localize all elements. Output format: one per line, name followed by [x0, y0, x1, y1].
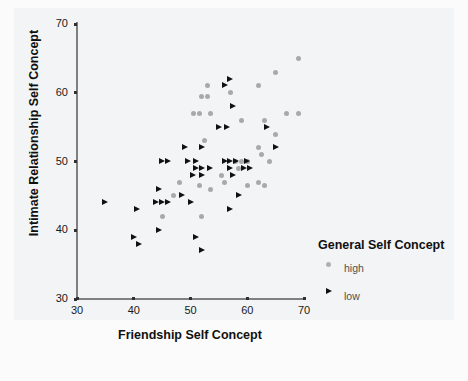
- data-point-high: [296, 56, 301, 61]
- data-point-low: [185, 158, 191, 164]
- data-point-low: [136, 241, 142, 247]
- data-point-low: [165, 158, 171, 164]
- data-point-high: [191, 111, 196, 116]
- y-tick-label: 60: [44, 86, 68, 98]
- data-point-low: [131, 234, 137, 240]
- data-point-high: [273, 70, 278, 75]
- y-tick-label: 50: [44, 155, 68, 167]
- x-tick-label: 60: [235, 304, 259, 316]
- data-point-high: [262, 118, 267, 123]
- data-point-high: [219, 173, 224, 178]
- data-point-low: [273, 144, 279, 150]
- data-point-low: [264, 124, 270, 130]
- triangle-marker-icon: [326, 288, 332, 294]
- data-point-high: [284, 111, 289, 116]
- data-point-low: [236, 192, 242, 198]
- circle-marker-icon: [326, 262, 331, 267]
- legend-label-high: high: [344, 262, 364, 274]
- scatter-plot-figure: 30405060703040506070 Intimate Relationsh…: [0, 0, 468, 381]
- data-point-low: [224, 124, 230, 130]
- data-point-low: [193, 234, 199, 240]
- data-point-low: [199, 247, 205, 253]
- legend-title: General Self Concept: [318, 238, 458, 252]
- data-point-low: [190, 172, 196, 178]
- x-tick-label: 50: [179, 304, 203, 316]
- data-point-high: [205, 83, 210, 88]
- y-tick-label: 30: [44, 292, 68, 304]
- x-tick-label: 30: [65, 304, 89, 316]
- x-axis-title: Friendship Self Concept: [60, 328, 320, 342]
- data-point-low: [222, 82, 228, 88]
- data-point-low: [199, 144, 205, 150]
- data-point-high: [256, 180, 261, 185]
- data-point-low: [179, 192, 185, 198]
- x-tick-label: 70: [292, 304, 316, 316]
- y-tick-label: 70: [44, 17, 68, 29]
- data-point-high: [202, 138, 207, 143]
- legend-item-high: high: [318, 258, 458, 280]
- data-point-low: [193, 158, 199, 164]
- data-point-low: [182, 144, 188, 150]
- data-point-high: [245, 183, 250, 188]
- data-point-low: [165, 199, 171, 205]
- data-point-high: [171, 193, 176, 198]
- data-point-low: [227, 165, 233, 171]
- plot-data-area: [77, 24, 304, 299]
- data-point-low: [188, 199, 194, 205]
- data-point-high: [256, 145, 261, 150]
- data-point-high: [239, 118, 244, 123]
- data-point-high: [208, 187, 213, 192]
- data-point-low: [230, 103, 236, 109]
- data-point-low: [244, 158, 250, 164]
- legend-item-low: low: [318, 286, 458, 308]
- data-point-high: [222, 180, 227, 185]
- legend: General Self Concept high low: [318, 238, 458, 308]
- data-point-high: [199, 214, 204, 219]
- data-point-low: [156, 227, 162, 233]
- data-point-high: [197, 111, 202, 116]
- data-point-high: [262, 183, 267, 188]
- data-point-low: [216, 124, 222, 130]
- data-point-low: [102, 199, 108, 205]
- data-point-high: [197, 183, 202, 188]
- data-point-high: [160, 214, 165, 219]
- data-point-low: [247, 165, 253, 171]
- data-point-high: [177, 180, 182, 185]
- data-point-high: [256, 83, 261, 88]
- data-point-low: [230, 172, 236, 178]
- data-point-high: [273, 132, 278, 137]
- y-axis-title: Intimate Relationship Self Concept: [27, 13, 41, 253]
- data-point-low: [199, 165, 205, 171]
- data-point-low: [207, 165, 213, 171]
- legend-label-low: low: [344, 290, 360, 302]
- data-point-low: [199, 172, 205, 178]
- data-point-low: [227, 206, 233, 212]
- data-point-high: [208, 111, 213, 116]
- y-tick-label: 40: [44, 223, 68, 235]
- data-point-low: [233, 158, 239, 164]
- data-point-high: [199, 94, 204, 99]
- data-point-high: [267, 159, 272, 164]
- data-point-low: [134, 206, 140, 212]
- x-tick-label: 40: [122, 304, 146, 316]
- data-point-high: [296, 111, 301, 116]
- data-point-high: [259, 152, 264, 157]
- data-point-low: [156, 186, 162, 192]
- data-point-high: [205, 94, 210, 99]
- data-point-high: [228, 90, 233, 95]
- data-point-low: [227, 76, 233, 82]
